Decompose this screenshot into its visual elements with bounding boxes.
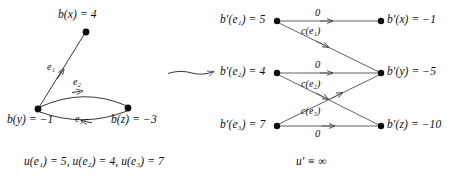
edge-label-e3: e₃: [75, 114, 83, 124]
node-label-eprime-2: b′(e₂) = 4: [220, 66, 265, 78]
left-graph-caption: u(e₁) = 5, u(e₂) = 4, u(e₃) = 7: [24, 156, 164, 168]
node-label-zprime: b′(z) = −10: [387, 119, 441, 131]
edge-e1-arrowhead: [57, 71, 62, 79]
node-e2-dot: [274, 70, 280, 76]
arc-e1-y: [279, 23, 379, 72]
node-zprime-dot: [378, 123, 384, 129]
right-graph-caption: u′ ≡ ∞: [296, 156, 327, 168]
node-label-y: b(y) = −1: [7, 114, 53, 126]
right-graph-arcs: [279, 21, 379, 126]
edge-label-e1: e₁: [47, 62, 55, 72]
transformation-arrow-path: [168, 71, 214, 74]
node-label-eprime-3: b′(e₃) = 7: [220, 119, 265, 131]
node-label-xprime: b′(x) = −1: [387, 14, 436, 26]
flow-network-transformation-figure: b(x) = 4 b(y) = −1 b(z) = −3 e₁ e₂ e₃ u(…: [0, 0, 454, 182]
node-label-yprime: b′(y) = −5: [387, 66, 436, 78]
arc-e1-y-arrowhead: [316, 41, 326, 46]
edge-label-e2: e₂: [73, 77, 81, 87]
arc-label-e3-y: c(e₃): [301, 106, 321, 116]
arc-label-e1-y: c(e₁): [301, 26, 321, 36]
arc-e3-y-arrowhead: [330, 94, 340, 99]
right-graph-nodes: [274, 18, 384, 129]
arc-label-e3-z: 0: [315, 129, 320, 140]
edge-e1-line: [38, 33, 85, 109]
node-label-eprime-1: b′(e₁) = 5: [220, 14, 265, 26]
node-yprime-dot: [378, 70, 384, 76]
arc-label-e1-x: 0: [315, 8, 320, 19]
node-z-dot: [125, 105, 132, 112]
arc-label-e2-y: 0: [315, 60, 320, 71]
arc-e2-z-arrowhead: [316, 93, 326, 98]
node-e1-dot: [274, 18, 280, 24]
edge-e3-arrowhead: [84, 121, 92, 123]
edge-e2-arrowhead: [72, 91, 80, 92]
arc-label-e2-z: c(e₂): [301, 79, 321, 89]
node-e3-dot: [274, 123, 280, 129]
node-x-dot: [83, 29, 90, 36]
node-label-x: b(x) = 4: [58, 9, 97, 21]
transformation-arrow: [168, 71, 214, 74]
edge-e2-arc: [40, 97, 127, 107]
node-label-z: b(z) = −3: [111, 114, 157, 126]
node-xprime-dot: [378, 18, 384, 24]
left-graph-edges: [38, 33, 127, 123]
node-y-dot: [35, 106, 42, 113]
